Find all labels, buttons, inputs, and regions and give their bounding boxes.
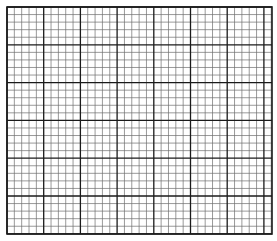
major-grid-lines	[7, 7, 272, 234]
grid-lines	[0, 0, 277, 241]
graph-paper	[0, 0, 277, 241]
